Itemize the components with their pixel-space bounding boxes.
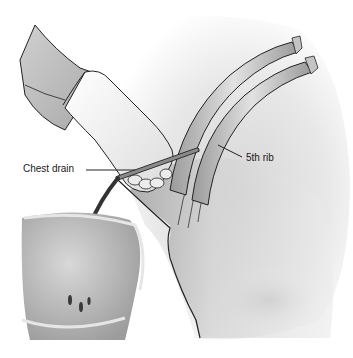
chest-drain-illustration — [0, 0, 353, 358]
fifth-rib-label: 5th rib — [246, 152, 274, 164]
chest-drain-label: Chest drain — [23, 163, 74, 175]
collection-bucket — [22, 212, 143, 340]
